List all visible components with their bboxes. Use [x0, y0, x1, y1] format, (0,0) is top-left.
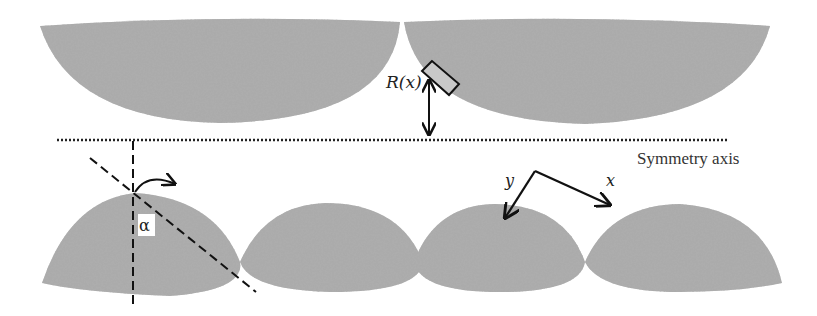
local-x-axis — [535, 171, 610, 205]
bottom-surface — [42, 193, 782, 296]
rough-surface-diagram: R(x) Symmetry axis α y x — [0, 0, 817, 316]
local-y-label: y — [504, 171, 515, 190]
local-x-label: x — [606, 171, 615, 190]
top-cap-left — [40, 19, 400, 123]
top-cap-right — [404, 19, 770, 124]
bottom-cap-1 — [42, 193, 240, 296]
bottom-cap-3 — [414, 204, 585, 292]
angle-label: α — [139, 216, 150, 235]
bottom-cap-4 — [585, 204, 782, 292]
roughness-label: R(x) — [385, 72, 422, 92]
bottom-cap-2 — [240, 203, 423, 292]
symmetry-axis-label: Symmetry axis — [637, 149, 739, 168]
rotation-arrow — [135, 180, 175, 193]
